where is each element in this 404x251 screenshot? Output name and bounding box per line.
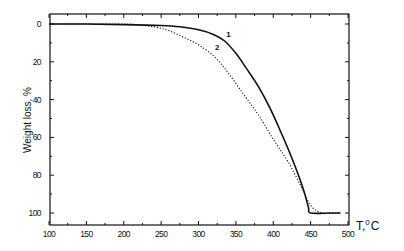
x-axis-title-unit: C bbox=[371, 219, 380, 233]
curve-label-1: 1 bbox=[226, 30, 231, 39]
y-tick-label: 40 bbox=[33, 95, 42, 105]
x-tick-label: 250 bbox=[155, 229, 168, 239]
x-tick-label: 100 bbox=[43, 229, 56, 239]
y-tick-label: 20 bbox=[33, 57, 42, 67]
curve-1 bbox=[49, 24, 341, 213]
x-tick-label: 450 bbox=[304, 229, 317, 239]
curve-label-2: 2 bbox=[215, 43, 220, 52]
y-axis-title: Weight loss, % bbox=[22, 87, 33, 153]
x-axis-title-sup: 0 bbox=[365, 218, 370, 227]
x-tick-label: 300 bbox=[192, 229, 205, 239]
x-tick-label: 350 bbox=[230, 229, 243, 239]
curve-2 bbox=[49, 24, 341, 214]
curves bbox=[49, 24, 341, 214]
x-axis-title-main: T, bbox=[356, 219, 365, 233]
x-tick-label: 400 bbox=[267, 229, 280, 239]
tga-chart: 100150200250300350400450500 020406080100… bbox=[0, 0, 404, 251]
y-tick-label: 0 bbox=[37, 19, 42, 29]
y-tick-label: 60 bbox=[33, 132, 42, 142]
y-tick-label: 80 bbox=[33, 170, 42, 180]
curve-labels: 12 bbox=[215, 30, 231, 52]
x-axis-title: T,0C bbox=[356, 218, 380, 233]
x-tick-label: 500 bbox=[342, 229, 355, 239]
x-tick-label: 200 bbox=[118, 229, 131, 239]
x-tick-label: 150 bbox=[80, 229, 93, 239]
y-tick-label: 100 bbox=[29, 208, 42, 218]
y-axis-ticks: 020406080100 bbox=[29, 19, 349, 218]
